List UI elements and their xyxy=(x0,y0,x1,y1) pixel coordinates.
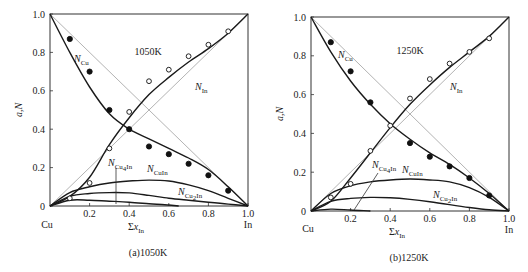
data-point-open xyxy=(388,123,393,128)
data-point-open xyxy=(348,181,353,186)
x-axis-label: ΣxIn xyxy=(389,226,406,240)
x-tick-label: 0.8 xyxy=(202,208,215,219)
data-point-open xyxy=(226,29,231,34)
temperature-label: 1250K xyxy=(396,45,424,56)
x-end-label-cu: Cu xyxy=(302,223,314,234)
data-point-filled xyxy=(206,173,211,178)
series-label-cu4in: NCu4In xyxy=(107,157,133,173)
data-point-filled xyxy=(427,154,432,159)
data-point-filled xyxy=(67,36,72,41)
plot-area-1050k: 00.20.40.60.81.00.20.40.60.81.0NCuNInNCu… xyxy=(33,9,255,220)
data-point-open xyxy=(166,67,171,72)
data-point-open xyxy=(67,196,72,201)
y-tick-label: 0.2 xyxy=(33,162,46,173)
data-point-filled xyxy=(226,188,231,193)
y-tick-label: 0.4 xyxy=(294,128,307,139)
y-tick-label: 0.8 xyxy=(33,47,46,58)
data-point-open xyxy=(107,146,112,151)
data-point-filled xyxy=(447,164,452,169)
data-point-filled xyxy=(166,152,171,157)
x-tick-label: 0.6 xyxy=(424,213,437,224)
curve-n_cuin xyxy=(311,179,509,211)
figure-caption: (b)1250K xyxy=(390,252,430,264)
y-tick-label: 0.6 xyxy=(294,89,307,100)
y-tick-label: 0.2 xyxy=(294,167,307,178)
data-point-filled xyxy=(87,69,92,74)
data-point-filled xyxy=(186,161,191,166)
data-point-filled xyxy=(146,144,151,149)
data-point-open xyxy=(467,50,472,55)
data-point-filled xyxy=(107,107,112,112)
x-tick-label: 0.8 xyxy=(463,213,476,224)
temperature-label: 1050K xyxy=(134,46,162,57)
figure-caption: (a)1050K xyxy=(129,247,168,259)
y-tick-label: 0.6 xyxy=(33,85,46,96)
data-point-open xyxy=(487,36,492,41)
data-point-open xyxy=(447,61,452,66)
data-point-open xyxy=(408,96,413,101)
x-tick-label: 0.4 xyxy=(123,208,136,219)
x-tick-label: 0.6 xyxy=(163,208,176,219)
curve-n_cuin xyxy=(50,180,248,206)
x-tick-label: 0.2 xyxy=(83,208,96,219)
data-point-open xyxy=(127,110,132,115)
x-axis-label: ΣxIn xyxy=(128,221,145,235)
x-tick-label: 0.4 xyxy=(384,213,397,224)
y-tick-label: 0 xyxy=(301,206,306,217)
data-point-open xyxy=(87,181,92,186)
data-point-open xyxy=(186,54,191,59)
chart-panel-1250k: 00.20.40.60.81.00.20.40.60.81.0NCuNInNCu… xyxy=(274,12,515,265)
series-label-cu4in: NCu4In xyxy=(371,159,397,175)
y-tick-label: 1.0 xyxy=(33,9,46,20)
data-point-open xyxy=(206,42,211,47)
x-end-label-in: In xyxy=(244,219,252,230)
data-point-open xyxy=(368,148,373,153)
data-point-filled xyxy=(328,40,333,45)
data-point-filled xyxy=(487,193,492,198)
y-tick-label: 0 xyxy=(40,201,45,212)
y-tick-label: 0.8 xyxy=(294,50,307,61)
series-label-in: NIn xyxy=(449,81,463,95)
series-label-cuin: NCuIn xyxy=(146,163,168,177)
series-label-cu: NCu xyxy=(73,53,89,67)
chart-panel-1050k: 00.20.40.60.81.00.20.40.60.81.0NCuNInNCu… xyxy=(13,9,254,260)
x-tick-label: 0.2 xyxy=(344,213,357,224)
activity-charts: 00.20.40.60.81.00.20.40.60.81.0NCuNInNCu… xyxy=(0,0,528,272)
plot-area-1250k: 00.20.40.60.81.00.20.40.60.81.0NCuNInNCu… xyxy=(294,12,516,225)
data-point-filled xyxy=(407,141,412,146)
data-point-open xyxy=(328,195,333,200)
data-point-filled xyxy=(348,69,353,74)
y-tick-label: 1.0 xyxy=(294,12,307,23)
series-label-in: NIn xyxy=(194,81,208,95)
data-point-filled xyxy=(127,127,132,132)
x-end-label-in: In xyxy=(505,224,513,235)
series-label-cuin: NCuIn xyxy=(401,164,423,178)
x-end-label-cu: Cu xyxy=(41,219,53,230)
y-axis-label: a,N xyxy=(274,106,285,122)
leader-line xyxy=(354,173,378,210)
y-tick-label: 0.4 xyxy=(33,124,46,135)
data-point-open xyxy=(147,79,152,84)
x-tick-label: 1.0 xyxy=(503,213,516,224)
data-point-open xyxy=(427,77,432,82)
data-point-filled xyxy=(368,100,373,105)
x-tick-label: 1.0 xyxy=(242,208,255,219)
data-point-filled xyxy=(467,175,472,180)
y-axis-label: a,N xyxy=(13,102,24,118)
